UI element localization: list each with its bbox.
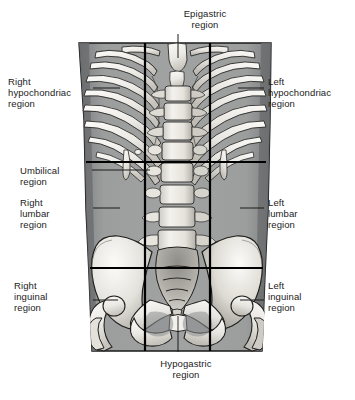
label-epigastric-region: Epigastric region [160, 8, 250, 30]
label-left-inguinal-region: Left inguinal region [268, 280, 348, 314]
label-right-hypochondriac-region: Right hypochondriac region [8, 76, 92, 110]
label-hypogastric-region: Hypogastric region [140, 358, 232, 380]
label-umbilical-region: Umbilical region [20, 165, 92, 187]
label-right-lumbar-region: Right lumbar region [20, 197, 92, 231]
label-left-lumbar-region: Left lumbar region [268, 197, 348, 231]
label-right-inguinal-region: Right inguinal region [14, 280, 92, 314]
anatomical-figure: Epigastric region Right hypochondriac re… [0, 0, 355, 400]
label-left-hypochondriac-region: Left hypochondriac region [268, 76, 354, 110]
